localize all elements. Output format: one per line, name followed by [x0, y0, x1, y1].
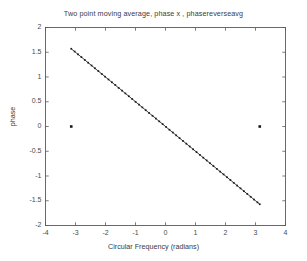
series-marker-0: [101, 73, 103, 75]
series-marker-0: [94, 67, 96, 69]
series-marker-0: [213, 165, 215, 167]
x-tick-label: -4: [36, 229, 56, 236]
x-tick-label: -2: [96, 229, 116, 236]
series-marker-0: [148, 112, 150, 114]
series-marker-0: [70, 48, 72, 50]
y-axis-label: phase: [8, 87, 17, 147]
series-marker-0: [87, 62, 89, 64]
series-marker-0: [74, 51, 76, 53]
series-marker-0: [77, 53, 79, 55]
series-marker-0: [240, 188, 242, 190]
series-marker-0: [219, 171, 221, 173]
series-marker-0: [111, 81, 113, 83]
series-marker-0: [158, 121, 160, 123]
y-tick-label: 2: [20, 23, 42, 30]
y-tick-label: -1.5: [20, 196, 42, 203]
series-marker-0: [175, 134, 177, 136]
series-marker-0: [216, 168, 218, 170]
series-marker-0: [128, 95, 130, 97]
series-marker-1: [258, 125, 261, 128]
series-marker-0: [253, 199, 255, 201]
series-marker-0: [152, 115, 154, 117]
series-marker-0: [259, 203, 261, 205]
series-marker-0: [182, 140, 184, 142]
series-marker-0: [121, 90, 123, 92]
series-marker-0: [145, 109, 147, 111]
series-marker-0: [97, 70, 99, 72]
series-marker-0: [189, 146, 191, 148]
series-marker-0: [91, 65, 93, 67]
series-marker-0: [233, 182, 235, 184]
series-marker-0: [81, 56, 83, 58]
series-marker-0: [209, 162, 211, 164]
series-marker-0: [169, 129, 171, 131]
series-marker-0: [243, 190, 245, 192]
data-series-group: [70, 48, 261, 205]
series-marker-0: [114, 84, 116, 86]
series-marker-0: [230, 179, 232, 181]
series-marker-0: [236, 185, 238, 187]
series-marker-0: [162, 123, 164, 125]
series-marker-0: [125, 93, 127, 95]
series-marker-0: [192, 148, 194, 150]
series-marker-0: [108, 79, 110, 81]
x-tick-label: -1: [126, 229, 146, 236]
series-marker-0: [257, 202, 259, 204]
x-tick-label: 2: [216, 229, 236, 236]
y-tick-label: 0.5: [20, 97, 42, 104]
series-marker-0: [206, 160, 208, 162]
series-marker-0: [104, 76, 106, 78]
series-marker-0: [165, 126, 167, 128]
plot-area: [0, 0, 307, 261]
y-tick-label: -1: [20, 172, 42, 179]
x-tick-label: -3: [66, 229, 86, 236]
series-marker-0: [196, 151, 198, 153]
x-axis-label: Circular Frequency (radians): [0, 242, 307, 251]
x-tick-label: 4: [276, 229, 296, 236]
series-marker-0: [138, 104, 140, 106]
series-marker-0: [223, 174, 225, 176]
x-tick-label: 0: [156, 229, 176, 236]
figure-canvas: Two point moving average, phase x , phas…: [0, 0, 307, 261]
series-marker-0: [186, 143, 188, 145]
y-tick-label: -0.5: [20, 147, 42, 154]
x-tick-label: 3: [246, 229, 266, 236]
series-marker-0: [135, 101, 137, 103]
series-marker-0: [141, 107, 143, 109]
series-marker-1: [70, 125, 73, 128]
series-marker-0: [250, 196, 252, 198]
series-marker-0: [155, 118, 157, 120]
series-marker-0: [246, 193, 248, 195]
series-marker-0: [118, 87, 120, 89]
y-tick-label: 1.5: [20, 48, 42, 55]
y-tick-label: -2: [20, 221, 42, 228]
series-marker-0: [84, 59, 86, 61]
y-tick-label: 0: [20, 122, 42, 129]
series-marker-0: [226, 176, 228, 178]
y-tick-label: 1: [20, 73, 42, 80]
series-marker-0: [179, 137, 181, 139]
series-marker-0: [172, 132, 174, 134]
x-tick-label: 1: [186, 229, 206, 236]
series-marker-0: [202, 157, 204, 159]
series-marker-0: [131, 98, 133, 100]
series-marker-0: [199, 154, 201, 156]
